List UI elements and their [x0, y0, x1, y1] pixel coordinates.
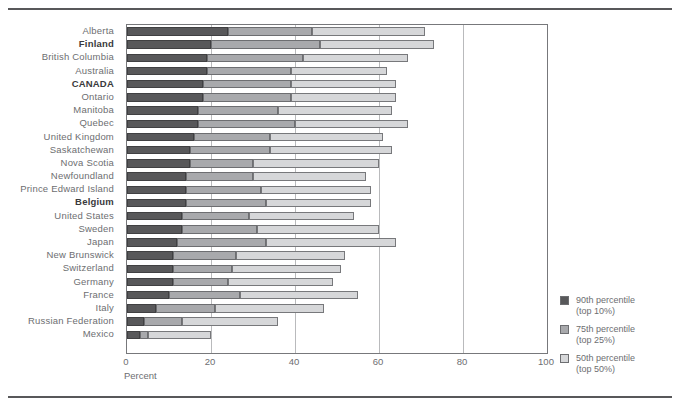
bar-segment-75th: [186, 186, 262, 194]
bar-segment-90th: [127, 93, 203, 101]
bar-rows: [127, 25, 547, 353]
bar-segment-75th: [186, 199, 266, 207]
stacked-bar: [127, 67, 387, 75]
bar-segment-75th: [203, 93, 291, 101]
bar-row: [127, 196, 547, 209]
bar-segment-90th: [127, 133, 194, 141]
bar-segment-50th: [266, 199, 371, 207]
stacked-bar: [127, 133, 383, 141]
category-label: Saskatchewan: [0, 143, 120, 156]
stacked-bar: [127, 106, 392, 114]
stacked-bar: [127, 27, 425, 35]
bar-segment-75th: [228, 27, 312, 35]
top-rule: [8, 8, 672, 10]
category-label: Belgium: [0, 195, 120, 208]
bar-segment-50th: [253, 172, 366, 180]
x-tick-label: 0: [123, 356, 128, 367]
legend-label-line1: 50th percentile: [576, 353, 635, 364]
bar-segment-75th: [207, 54, 304, 62]
swatch-50th-icon: [560, 354, 569, 363]
bar-segment-50th: [291, 80, 396, 88]
bar-segment-90th: [127, 331, 140, 339]
bar-segment-90th: [127, 212, 182, 220]
category-label: Finland: [0, 37, 120, 50]
bar-segment-75th: [198, 106, 278, 114]
bar-row: [127, 170, 547, 183]
category-label: CANADA: [0, 77, 120, 90]
bar-segment-90th: [127, 199, 186, 207]
x-tick-label: 40: [289, 356, 300, 367]
category-label: Sweden: [0, 222, 120, 235]
category-label: New Brunswick: [0, 248, 120, 261]
category-label: Italy: [0, 301, 120, 314]
bar-row: [127, 78, 547, 91]
bar-segment-90th: [127, 120, 198, 128]
category-label: Japan: [0, 235, 120, 248]
x-axis: 020406080100 Percent: [126, 356, 548, 386]
bar-row: [127, 38, 547, 51]
bar-segment-90th: [127, 146, 190, 154]
bar-segment-90th: [127, 291, 169, 299]
stacked-bar: [127, 212, 354, 220]
bar-row: [127, 210, 547, 223]
bar-segment-90th: [127, 278, 173, 286]
x-tick-label: 20: [205, 356, 216, 367]
stacked-bar: [127, 120, 408, 128]
stacked-bar: [127, 304, 324, 312]
bar-segment-50th: [249, 212, 354, 220]
category-label: Nova Scotia: [0, 156, 120, 169]
category-label: Switzerland: [0, 261, 120, 274]
stacked-bar: [127, 80, 396, 88]
stacked-bar: [127, 238, 396, 246]
legend-label-line1: 75th percentile: [576, 324, 635, 335]
bar-row: [127, 262, 547, 275]
x-axis-title: Percent: [124, 370, 157, 381]
bar-segment-90th: [127, 106, 198, 114]
bar-segment-90th: [127, 225, 182, 233]
bar-segment-75th: [140, 331, 148, 339]
bar-segment-50th: [148, 331, 211, 339]
bar-segment-90th: [127, 265, 173, 273]
stacked-bar: [127, 291, 358, 299]
category-label-column: AlbertaFinlandBritish ColumbiaAustraliaC…: [0, 24, 120, 341]
legend-label-line2: (top 50%): [576, 364, 635, 375]
bar-segment-50th: [240, 291, 358, 299]
category-label: United States: [0, 209, 120, 222]
category-label: Manitoba: [0, 103, 120, 116]
category-label: Newfoundland: [0, 169, 120, 182]
bar-segment-50th: [182, 317, 279, 325]
plot-area: [126, 24, 548, 354]
category-label: Alberta: [0, 24, 120, 37]
bar-segment-90th: [127, 54, 207, 62]
stacked-bar: [127, 278, 333, 286]
bar-row: [127, 289, 547, 302]
bar-segment-50th: [320, 40, 433, 48]
bar-segment-75th: [203, 80, 291, 88]
bar-segment-75th: [177, 238, 265, 246]
legend-item: 90th percentile(top 10%): [560, 295, 672, 317]
bar-segment-90th: [127, 40, 211, 48]
legend-label: 50th percentile(top 50%): [576, 353, 635, 375]
swatch-90th-icon: [560, 296, 569, 305]
chart-legend: 90th percentile(top 10%)75th percentile(…: [560, 295, 672, 382]
category-label: Quebec: [0, 116, 120, 129]
bar-segment-90th: [127, 159, 190, 167]
bar-row: [127, 144, 547, 157]
category-label: France: [0, 288, 120, 301]
stacked-bar: [127, 265, 341, 273]
bar-row: [127, 117, 547, 130]
bar-row: [127, 236, 547, 249]
legend-item: 50th percentile(top 50%): [560, 353, 672, 375]
bar-segment-90th: [127, 238, 177, 246]
x-tick-label: 100: [538, 356, 554, 367]
category-label: Prince Edward Island: [0, 182, 120, 195]
x-tick-label: 60: [373, 356, 384, 367]
bar-segment-50th: [278, 106, 391, 114]
bar-segment-75th: [190, 159, 253, 167]
bar-segment-90th: [127, 67, 207, 75]
stacked-bar: [127, 172, 366, 180]
stacked-bar: [127, 186, 371, 194]
stacked-bar: [127, 331, 211, 339]
bar-row: [127, 249, 547, 262]
bar-segment-90th: [127, 80, 203, 88]
